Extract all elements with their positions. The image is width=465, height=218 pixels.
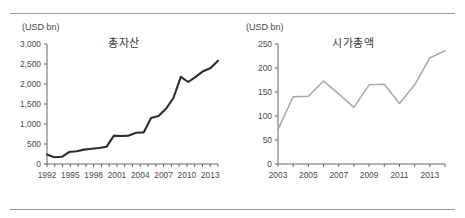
y-tick-label: 200 [258, 63, 272, 73]
unit-label-right: (USD bn) [246, 22, 284, 32]
y-tick-label: 0 [36, 159, 41, 169]
x-tick-label: 2005 [299, 170, 318, 180]
y-tick-label: 1,500 [20, 99, 41, 109]
top-divider-rule [10, 13, 455, 14]
x-tick-label: 1998 [84, 170, 103, 180]
bottom-divider-rule [10, 209, 455, 210]
x-tick-label: 2004 [131, 170, 150, 180]
y-tick-label: 0 [267, 159, 272, 169]
y-tick-label: 2,500 [20, 59, 41, 69]
unit-label-left: (USD bn) [22, 22, 60, 32]
charts-container: (USD bn) 총자산 05001,0001,5002,0002,5003,0… [0, 18, 465, 198]
x-tick-label: 2013 [420, 170, 439, 180]
x-tick-label: 2011 [390, 170, 408, 180]
y-tick-label: 2,000 [20, 79, 41, 89]
axis-lines [278, 44, 445, 164]
x-tick-label: 2001 [108, 170, 127, 180]
axis-lines [47, 44, 218, 164]
clipped-header-text [12, 0, 453, 6]
chart-panel-market-cap: (USD bn) 시가총액 05010015020025020032005200… [240, 18, 455, 198]
x-tick-label: 1992 [38, 170, 57, 180]
x-tick-label: 2013 [201, 170, 220, 180]
y-tick-label: 150 [258, 87, 272, 97]
figure-page: (USD bn) 총자산 05001,0001,5002,0002,5003,0… [0, 0, 465, 218]
x-tick-label: 2007 [154, 170, 173, 180]
y-tick-label: 1,000 [20, 119, 41, 129]
chart-title-market-cap: 시가총액 [332, 34, 374, 50]
y-tick-label: 500 [27, 139, 41, 149]
x-tick-label: 2003 [269, 170, 288, 180]
y-tick-label: 100 [258, 111, 272, 121]
chart-panel-total-assets: (USD bn) 총자산 05001,0001,5002,0002,5003,0… [0, 18, 240, 198]
chart-title-total-assets: 총자산 [108, 34, 140, 50]
y-tick-label: 3,000 [20, 39, 41, 49]
series-line-total-assets [47, 61, 218, 157]
series-line-market-cap [278, 51, 445, 130]
x-tick-label: 2009 [360, 170, 379, 180]
x-tick-label: 2010 [178, 170, 197, 180]
y-tick-label: 50 [263, 135, 273, 145]
x-tick-label: 1995 [61, 170, 80, 180]
y-tick-label: 250 [258, 39, 272, 49]
x-tick-label: 2007 [329, 170, 348, 180]
